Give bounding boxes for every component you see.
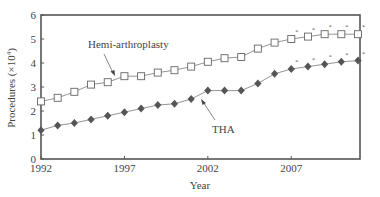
data-point-square <box>138 73 145 80</box>
significance-asterisk: * <box>295 29 298 35</box>
data-point-diamond <box>188 95 195 103</box>
data-point-square <box>88 81 95 88</box>
arrowhead-icon <box>201 99 206 105</box>
data-point-square <box>121 73 128 80</box>
data-point-diamond <box>54 121 61 129</box>
series-tha: ***** <box>37 51 365 135</box>
significance-asterisk: * <box>345 52 348 58</box>
data-point-square <box>254 45 261 52</box>
data-point-diamond <box>221 87 228 95</box>
x-axis-title: Year <box>190 179 211 191</box>
data-point-square <box>321 31 328 38</box>
y-tick-label: 3 <box>31 81 37 93</box>
x-tick-label: 1992 <box>30 162 52 174</box>
y-tick-label: 4 <box>31 57 37 69</box>
data-point-diamond <box>171 100 178 108</box>
annotation-layer: Hemi-arthroplastyTHA <box>88 38 235 135</box>
arrowhead-icon <box>111 70 116 76</box>
data-point-square <box>154 69 161 76</box>
y-tick-label: 2 <box>31 105 37 117</box>
annotation-arrow-tha <box>203 102 215 120</box>
y-tick-label: 1 <box>31 129 37 141</box>
data-point-square <box>171 67 178 74</box>
x-tick-label: 1997 <box>113 162 136 174</box>
data-point-diamond <box>71 119 78 127</box>
significance-asterisk: * <box>312 57 315 63</box>
series-hemi-arthroplasty: ***** <box>38 24 366 105</box>
annotation-hemi-arthroplasty: Hemi-arthroplasty <box>88 38 169 50</box>
data-point-square <box>271 39 278 46</box>
data-point-square <box>38 98 45 105</box>
data-point-square <box>188 63 195 70</box>
y-axis-title-main: Procedures (×10 <box>5 55 18 128</box>
data-point-diamond <box>338 58 345 66</box>
x-tick-label: 2007 <box>280 162 303 174</box>
data-point-diamond <box>121 108 128 116</box>
data-point-diamond <box>87 115 94 123</box>
data-point-square <box>204 58 211 65</box>
data-point-diamond <box>288 65 295 73</box>
data-point-diamond <box>37 126 44 134</box>
significance-asterisk: * <box>312 27 315 33</box>
data-point-square <box>104 79 111 86</box>
data-point-square <box>71 88 78 95</box>
data-point-diamond <box>321 60 328 68</box>
data-point-square <box>238 54 245 61</box>
data-point-square <box>304 33 311 40</box>
significance-asterisk: * <box>362 51 365 57</box>
y-tick-label: 5 <box>31 33 37 45</box>
significance-asterisk: * <box>295 59 298 65</box>
data-point-diamond <box>238 87 245 95</box>
significance-asterisk: * <box>362 24 365 30</box>
x-tick-label: 2002 <box>197 162 219 174</box>
y-axis: 0123456 <box>31 9 45 165</box>
data-point-diamond <box>304 63 311 71</box>
line-chart: 0123456 1992199720022007 ********** Hemi… <box>0 0 380 197</box>
data-point-diamond <box>154 101 161 109</box>
y-axis-title: Procedures (×104) <box>5 48 18 128</box>
series-layer: ********** <box>37 24 365 134</box>
data-point-diamond <box>104 112 111 120</box>
data-point-square <box>355 31 362 38</box>
y-axis-title-tail: ) <box>5 48 18 52</box>
annotation-arrow-hemi <box>104 54 113 73</box>
data-point-diamond <box>204 87 211 95</box>
data-point-square <box>54 94 61 101</box>
significance-asterisk: * <box>345 24 348 30</box>
annotation-tha: THA <box>212 123 235 135</box>
data-point-diamond <box>271 70 278 78</box>
data-point-square <box>338 31 345 38</box>
data-point-square <box>288 36 295 43</box>
data-point-diamond <box>138 105 145 113</box>
significance-asterisk: * <box>329 54 332 60</box>
y-tick-label: 6 <box>31 9 37 21</box>
significance-asterisk: * <box>329 24 332 30</box>
data-point-diamond <box>254 79 261 87</box>
data-point-square <box>221 55 228 62</box>
